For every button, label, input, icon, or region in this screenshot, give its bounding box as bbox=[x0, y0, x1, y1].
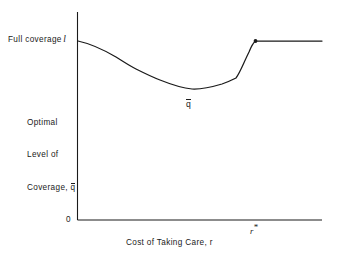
full-coverage-axis-label: Full coveragel bbox=[8, 33, 66, 46]
threshold-point-marker bbox=[254, 39, 258, 43]
x-axis-title: Cost of Taking Care, r bbox=[126, 238, 213, 249]
origin-label: 0 bbox=[66, 215, 71, 226]
y-axis-title-line-3: Coverage, q bbox=[27, 183, 75, 194]
threshold-annotation: r* bbox=[250, 222, 259, 237]
q-bar-symbol: q bbox=[71, 183, 76, 192]
full-coverage-symbol: l bbox=[62, 34, 66, 44]
figure-container: Full coveragel Optimal Level of Coverage… bbox=[0, 0, 337, 262]
q-bar-annotation-symbol: q bbox=[186, 99, 191, 109]
y-axis-title: Optimal Level of Coverage, q bbox=[27, 96, 75, 215]
y-axis-title-line-3-prefix: Coverage, bbox=[27, 183, 71, 192]
full-coverage-text: Full coverage bbox=[8, 35, 62, 44]
y-axis-title-line-1: Optimal bbox=[27, 118, 75, 129]
threshold-annotation-star: * bbox=[254, 222, 259, 232]
coverage-curve bbox=[78, 41, 322, 89]
y-axis-title-line-2: Level of bbox=[27, 150, 75, 161]
curve-minimum-annotation: q bbox=[186, 99, 191, 110]
